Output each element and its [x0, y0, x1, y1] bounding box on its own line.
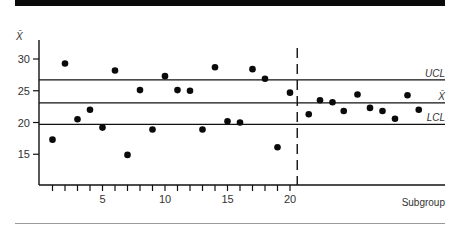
x-tick-label: 15: [221, 193, 233, 205]
data-point: [262, 75, 269, 82]
data-point: [329, 99, 336, 106]
control-line-label-center: X̄: [437, 90, 445, 102]
control-lines: UCLX̄LCL: [39, 48, 445, 185]
data-point: [187, 87, 194, 94]
data-points: [49, 60, 422, 158]
data-point: [62, 60, 69, 67]
data-point: [249, 66, 256, 73]
data-point: [124, 152, 131, 159]
x-tick-label: 5: [99, 193, 105, 205]
y-tick-label: 20: [18, 117, 30, 129]
data-point: [224, 118, 231, 125]
data-point: [317, 97, 324, 104]
data-point: [274, 144, 281, 151]
data-point: [112, 67, 119, 74]
control-chart: 152025305101520 UCLX̄LCL X̄ Subgroup: [0, 0, 460, 230]
data-point: [174, 87, 181, 94]
y-tick-label: 30: [18, 53, 30, 65]
data-point: [74, 116, 81, 123]
data-point: [379, 108, 386, 115]
y-tick-label: 25: [18, 85, 30, 97]
data-point: [99, 124, 106, 131]
x-tick-label: 10: [159, 193, 171, 205]
data-point: [392, 115, 399, 122]
data-point: [354, 91, 361, 98]
data-point: [305, 111, 312, 118]
data-point: [149, 126, 156, 133]
control-line-label-ucl: UCL: [425, 68, 445, 79]
x-axis-title: Subgroup: [402, 197, 446, 208]
data-point: [212, 64, 219, 71]
axes: 152025305101520: [18, 40, 445, 205]
data-point: [415, 107, 422, 114]
data-point: [237, 119, 244, 126]
data-point: [367, 105, 374, 112]
data-point: [199, 126, 206, 133]
data-point: [162, 73, 169, 80]
data-point: [49, 136, 56, 143]
y-tick-label: 15: [18, 148, 30, 160]
bottom-rule: [15, 223, 445, 224]
y-axis-title: X̄: [15, 30, 23, 42]
control-line-label-lcl: LCL: [427, 112, 445, 123]
data-point: [287, 89, 294, 96]
data-point: [87, 107, 94, 114]
data-point: [404, 92, 411, 99]
x-tick-label: 20: [284, 193, 296, 205]
data-point: [340, 108, 347, 115]
data-point: [137, 87, 144, 94]
